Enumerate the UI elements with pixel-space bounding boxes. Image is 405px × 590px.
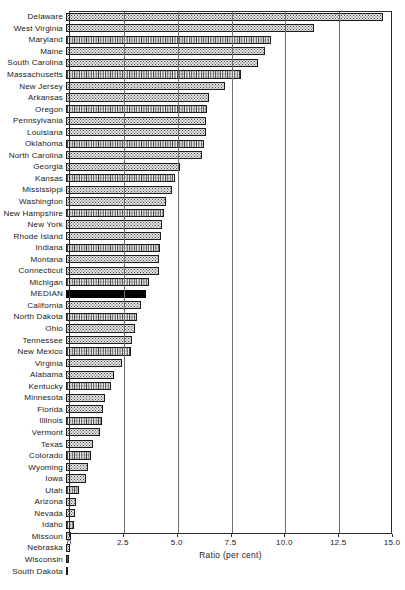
bar-cell xyxy=(66,115,405,127)
category-label: California xyxy=(0,301,66,310)
category-label: Louisiana xyxy=(0,128,66,137)
bar xyxy=(66,394,105,402)
x-axis-tick xyxy=(123,534,124,537)
category-label: Texas xyxy=(0,440,66,449)
bar-cell xyxy=(66,311,405,323)
bar-cell xyxy=(66,196,405,208)
bar-row: California xyxy=(0,300,405,312)
bar-cell xyxy=(66,484,405,496)
category-label: West Virginia xyxy=(0,24,66,33)
bar xyxy=(66,13,383,21)
bar-row: Maryland xyxy=(0,34,405,46)
bar-cell xyxy=(66,473,405,485)
bar xyxy=(66,220,162,228)
x-axis-tick-label: 0 xyxy=(67,538,72,548)
category-label: Arkansas xyxy=(0,93,66,102)
bar-cell xyxy=(66,288,405,300)
bar-row: Nevada xyxy=(0,508,405,520)
bar-cell xyxy=(66,381,405,393)
x-axis-tick-label: 10.0 xyxy=(276,538,293,548)
bar xyxy=(66,59,258,67)
bar-cell xyxy=(66,92,405,104)
bar-row: Rhode Island xyxy=(0,230,405,242)
bar-cell xyxy=(66,427,405,439)
category-label: Michigan xyxy=(0,278,66,287)
category-label: Oklahoma xyxy=(0,139,66,148)
bar-cell xyxy=(66,126,405,138)
category-label: North Dakota xyxy=(0,312,66,321)
category-label: Tennessee xyxy=(0,336,66,345)
bar-cell xyxy=(66,219,405,231)
bar-cell xyxy=(66,438,405,450)
category-label: MEDIAN xyxy=(0,289,66,298)
bar-row: Iowa xyxy=(0,473,405,485)
bar-cell xyxy=(66,173,405,185)
chart-title xyxy=(0,0,405,8)
category-label: Georgia xyxy=(0,162,66,171)
bar-cell xyxy=(66,242,405,254)
x-axis-tick xyxy=(338,534,339,537)
bar xyxy=(66,128,206,136)
bar-cell xyxy=(66,369,405,381)
bar-row: Michigan xyxy=(0,277,405,289)
bar xyxy=(66,105,207,113)
bar-row: Oregon xyxy=(0,103,405,115)
bar xyxy=(66,70,241,78)
bar xyxy=(66,197,166,205)
bar-cell xyxy=(66,346,405,358)
bar-row: Vermont xyxy=(0,427,405,439)
category-label: Vermont xyxy=(0,428,66,437)
bar-cell xyxy=(66,461,405,473)
bar xyxy=(66,313,137,321)
bar-row: Florida xyxy=(0,404,405,416)
bar-row: West Virginia xyxy=(0,23,405,35)
bar-row: Minnesota xyxy=(0,392,405,404)
bar-cell xyxy=(66,23,405,35)
bar-row: Arizona xyxy=(0,496,405,508)
category-label: Pennsylvania xyxy=(0,116,66,125)
bar-cell xyxy=(66,357,405,369)
bar-cell xyxy=(66,300,405,312)
category-label: Illinois xyxy=(0,416,66,425)
median-bar xyxy=(66,290,146,298)
bar-cell xyxy=(66,103,405,115)
bar xyxy=(66,117,206,125)
category-label: Massachusetts xyxy=(0,70,66,79)
category-label: Arizona xyxy=(0,497,66,506)
bar-row: Illinois xyxy=(0,415,405,427)
bar-cell xyxy=(66,253,405,265)
x-axis-tick-label: 12.5 xyxy=(330,538,347,548)
bar-row: Kansas xyxy=(0,173,405,185)
bar-cell xyxy=(66,80,405,92)
category-label: North Carolina xyxy=(0,151,66,160)
x-axis-title: Ratio (per cent) xyxy=(69,550,392,560)
bar xyxy=(66,174,175,182)
bar-cell xyxy=(66,496,405,508)
bar-row: Arkansas xyxy=(0,92,405,104)
category-label: Virginia xyxy=(0,359,66,368)
bar xyxy=(66,521,74,529)
bar xyxy=(66,244,160,252)
bar-row: South Carolina xyxy=(0,57,405,69)
bar xyxy=(66,428,100,436)
bar xyxy=(66,347,131,355)
bar-cell xyxy=(66,57,405,69)
bar xyxy=(66,405,103,413)
bar-row: Utah xyxy=(0,484,405,496)
bar xyxy=(66,486,79,494)
category-label: Oregon xyxy=(0,105,66,114)
bar xyxy=(66,93,209,101)
bar-row: Mississippi xyxy=(0,184,405,196)
bar xyxy=(66,267,159,275)
bar xyxy=(66,186,172,194)
bar-row: Montana xyxy=(0,253,405,265)
bar xyxy=(66,140,204,148)
bar-row: Colorado xyxy=(0,450,405,462)
bar-cell xyxy=(66,184,405,196)
x-axis-tick xyxy=(284,534,285,537)
bar xyxy=(66,474,86,482)
bar xyxy=(66,47,265,55)
bar xyxy=(66,440,93,448)
bar-cell xyxy=(66,207,405,219)
category-label: Washington xyxy=(0,197,66,206)
